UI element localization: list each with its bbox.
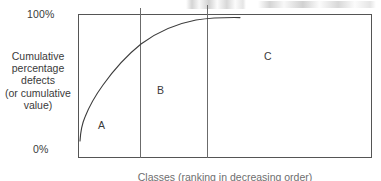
y-axis-title-line-1: Cumulative — [0, 50, 76, 62]
y-axis-max-tick-label: 100% — [27, 8, 55, 20]
region-label-c: C — [264, 50, 272, 62]
scan-artifact — [258, 1, 376, 8]
y-axis-title-line-4: (or cumulative — [0, 87, 76, 99]
y-axis-title-line-2: percentage — [0, 62, 76, 74]
y-axis-title-line-3: defects — [0, 74, 76, 86]
y-axis-title-line-5: value) — [0, 99, 76, 111]
region-divider-a-b — [140, 8, 141, 158]
y-axis-min-tick-label: 0% — [33, 143, 49, 155]
x-axis-title: Classes (ranking in decreasing order) — [78, 171, 372, 181]
pareto-diagram-screenshot: 100% 0% Cumulative percentage defects (o… — [0, 0, 381, 181]
region-label-a: A — [98, 119, 105, 131]
region-label-b: B — [157, 84, 164, 96]
region-divider-b-c — [207, 5, 208, 158]
plot-frame — [78, 14, 372, 158]
scan-artifact — [186, 0, 246, 9]
y-axis-title: Cumulative percentage defects (or cumula… — [0, 50, 76, 111]
